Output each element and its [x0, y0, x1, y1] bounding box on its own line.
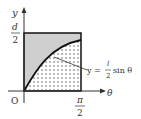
curve-label-suffix: sin θ — [113, 66, 132, 75]
y-tick-denominator: 2 — [13, 35, 19, 45]
x-axis-arrow-icon — [100, 89, 106, 94]
diagram-canvas: y θ O d 2 π 2 y = l 2 sin θ — [0, 0, 141, 119]
y-axis-label: y — [11, 7, 18, 18]
curve-label-frac-den: 2 — [106, 72, 110, 80]
x-tick-numerator: π — [76, 95, 84, 105]
origin-label: O — [11, 96, 18, 106]
curve-label-prefix: y = — [86, 66, 101, 75]
curve-label-frac-num: l — [107, 60, 109, 68]
x-axis-label: θ — [107, 88, 113, 98]
x-tick-denominator: 2 — [77, 108, 83, 118]
y-tick-numerator: d — [12, 22, 18, 32]
y-axis-arrow-icon — [22, 7, 27, 13]
